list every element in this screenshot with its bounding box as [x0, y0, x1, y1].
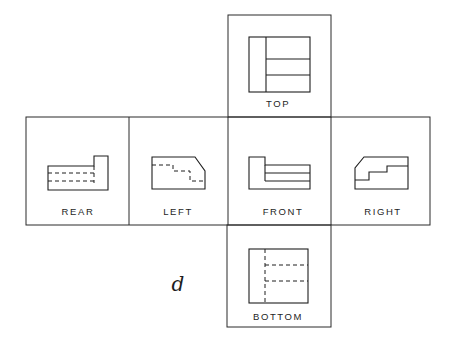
- bottom-view-label: BOTTOM: [253, 311, 303, 322]
- front-view-label: FRONT: [263, 206, 304, 217]
- left-hidden-line: [152, 165, 205, 181]
- left-view-label: LEFT: [163, 206, 193, 217]
- right-view-label: RIGHT: [364, 206, 402, 217]
- rear-view-label: REAR: [62, 206, 95, 217]
- front-view: FRONT: [249, 157, 310, 217]
- top-view-label: TOP: [266, 98, 290, 109]
- rear-view: REAR: [48, 156, 108, 217]
- bottom-view-outline: [249, 249, 308, 303]
- left-view: LEFT: [152, 157, 205, 217]
- view-frames: [26, 15, 430, 327]
- top-view-outline: [249, 37, 310, 92]
- bottom-view: BOTTOM: [249, 249, 308, 322]
- left-view-outline: [152, 157, 205, 189]
- figure-caption-letter: d: [172, 272, 185, 296]
- right-view-outline: [355, 157, 408, 189]
- orthographic-views-diagram: TOP REAR LEFT FRONT RIGHT BOTTOM d: [0, 0, 452, 344]
- top-view: TOP: [249, 37, 310, 109]
- right-view: RIGHT: [355, 157, 408, 217]
- right-view-step-edge: [355, 166, 408, 180]
